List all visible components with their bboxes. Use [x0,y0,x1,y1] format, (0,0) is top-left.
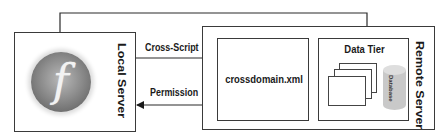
data-tier-label: Data Tier [324,43,406,55]
database-label: Database [388,75,394,102]
flash-glyph: f [31,56,91,106]
permission-label: Permission [150,86,198,98]
document-icon [328,76,366,106]
crossdomain-xml-label: crossdomain.xml [223,73,306,85]
database-cylinder [383,65,406,110]
crossdomain-xml-box: crossdomain.xml [217,38,309,121]
flash-player-icon: f [31,52,91,112]
cross-script-label: Cross-Script [145,41,199,53]
local-server-label: Local Server [116,43,128,118]
data-tier-box: Data Tier Database [318,38,409,121]
database-icon: Database [383,65,406,110]
local-server-box: f Local Server [14,32,136,132]
remote-server-label: Remote Server [414,41,426,129]
